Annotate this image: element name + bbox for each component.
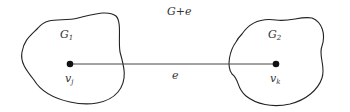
vertex-vk (273, 61, 280, 68)
vertex-vj-subscript: j (71, 78, 73, 86)
left-graph-label: G1 (60, 29, 73, 42)
vertex-vk-subscript: k (276, 78, 280, 86)
edge-label-text: e (172, 69, 179, 82)
vertex-vj-label: vj (65, 73, 73, 86)
right-graph-subscript: 2 (277, 34, 281, 42)
left-graph-blob (22, 13, 125, 104)
vertex-vk-label: vk (270, 73, 280, 86)
vertex-vj (67, 61, 74, 68)
graph-diagram: G+e G1 vj e G2 vk (0, 0, 350, 112)
graph-title: G+e (167, 6, 192, 17)
right-graph-letter: G (268, 28, 277, 41)
edge-label: e (172, 70, 179, 81)
left-graph-letter: G (60, 28, 69, 41)
title-text: G+e (167, 5, 192, 18)
left-graph-subscript: 1 (69, 34, 73, 42)
right-graph-label: G2 (268, 29, 281, 42)
